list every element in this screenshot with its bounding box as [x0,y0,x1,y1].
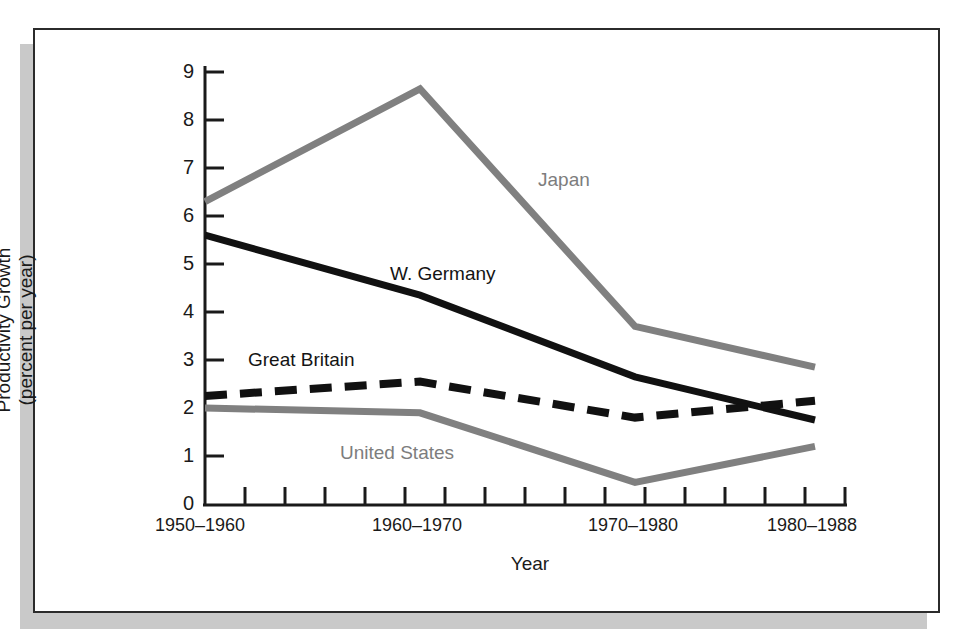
x-axis-title: Year [400,553,660,575]
series-label-w-germany: W. Germany [390,263,496,285]
y-tick-label-0: 0 [160,492,194,515]
x-tick-label-1960-1970: 1960–1970 [372,515,462,536]
x-axis-ticks [245,487,845,505]
y-tick-label-8: 8 [160,108,194,131]
y-tick-label-7: 7 [160,156,194,179]
series-line-united-states [205,408,815,482]
y-tick-label-2: 2 [160,396,194,419]
y-tick-label-4: 4 [160,300,194,323]
series-label-japan: Japan [538,169,590,191]
x-tick-label-1980-1988: 1980–1988 [767,515,857,536]
series-label-great-britain: Great Britain [248,349,355,371]
y-tick-label-9: 9 [160,60,194,83]
x-tick-label-1970-1980: 1970–1980 [588,515,678,536]
x-tick-label-1950-1960: 1950–1960 [155,515,245,536]
y-tick-label-5: 5 [160,252,194,275]
series-label-united-states: United States [340,442,454,464]
y-axis-title: Productivity Growth (percent per year) [0,200,38,460]
chart-plot-area [0,0,966,640]
y-tick-label-6: 6 [160,204,194,227]
y-tick-label-1: 1 [160,444,194,467]
y-tick-label-3: 3 [160,348,194,371]
series-line-japan [205,89,815,367]
figure-root: 9 8 7 6 5 4 3 2 1 0 1950–1960 1960–1970 … [0,0,966,640]
